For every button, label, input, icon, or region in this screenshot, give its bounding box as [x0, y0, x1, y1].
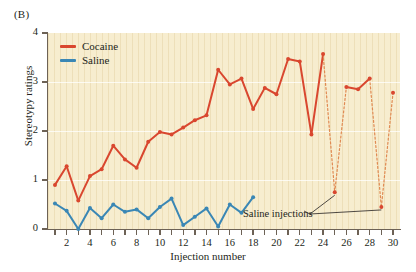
data-point: [321, 52, 325, 56]
series-segment: [300, 61, 312, 134]
annotation-leader-line: [310, 195, 335, 214]
series-segment: [207, 70, 219, 116]
data-point: [251, 195, 255, 199]
data-point: [391, 91, 395, 95]
series-segment: [207, 208, 219, 226]
data-point: [274, 92, 278, 96]
data-point: [100, 216, 104, 220]
series-segment: [172, 128, 184, 135]
series-segment: [183, 120, 195, 127]
series-segment: [113, 205, 125, 212]
data-point: [53, 202, 57, 206]
series-segment: [113, 146, 125, 160]
series-segment: [90, 208, 102, 218]
data-point: [111, 203, 115, 207]
series-segment: [276, 59, 288, 94]
data-point: [111, 144, 115, 148]
series-segment: [230, 205, 242, 213]
series-segment: [148, 207, 160, 218]
data-point: [193, 215, 197, 219]
series-segment: [102, 205, 114, 219]
data-point: [146, 216, 150, 220]
data-point: [356, 87, 360, 91]
series-segment: [358, 79, 370, 90]
series-segment: [241, 79, 253, 109]
series-segment: [148, 132, 160, 142]
series-segment: [335, 87, 347, 192]
series-segment: [218, 70, 230, 85]
data-point: [170, 132, 174, 136]
data-point: [205, 113, 209, 117]
data-point: [76, 227, 80, 231]
data-point: [251, 107, 255, 111]
series-segment: [218, 205, 230, 227]
data-point: [379, 205, 383, 209]
data-point: [309, 132, 313, 136]
series-segment: [160, 199, 172, 207]
data-point: [333, 190, 337, 194]
series-segment: [137, 209, 149, 218]
series-segment: [67, 166, 79, 200]
series-saline: [53, 195, 255, 231]
data-point: [123, 210, 127, 214]
data-point: [228, 203, 232, 207]
series-cocaine: [53, 52, 395, 209]
series-segment: [55, 166, 67, 185]
series-segment: [311, 54, 323, 134]
series-segment: [78, 176, 90, 201]
data-point: [344, 85, 348, 89]
data-point: [216, 225, 220, 229]
data-point: [286, 57, 290, 61]
data-point: [100, 167, 104, 171]
series-layer: [0, 0, 416, 272]
data-point: [53, 183, 57, 187]
series-segment: [102, 146, 114, 170]
series-segment: [370, 79, 382, 207]
data-point: [181, 126, 185, 130]
data-point: [181, 223, 185, 227]
data-point: [65, 164, 69, 168]
data-point: [146, 140, 150, 144]
data-point: [158, 130, 162, 134]
annotation-leader-line: [310, 210, 381, 214]
data-point: [205, 206, 209, 210]
series-segment: [78, 208, 90, 229]
series-segment: [195, 208, 207, 216]
figure-panel: (B) 01234 24681012141618202224262830 Ste…: [0, 0, 416, 272]
series-segment: [253, 88, 265, 109]
data-point: [88, 206, 92, 210]
series-segment: [137, 142, 149, 168]
data-point: [239, 77, 243, 81]
series-segment: [67, 211, 79, 229]
data-point: [135, 207, 139, 211]
data-point: [76, 199, 80, 203]
data-point: [368, 77, 372, 81]
data-point: [65, 209, 69, 213]
data-point: [216, 68, 220, 72]
series-segment: [55, 204, 67, 211]
data-point: [135, 166, 139, 170]
data-point: [123, 157, 127, 161]
data-point: [170, 197, 174, 201]
series-segment: [90, 169, 102, 176]
data-point: [88, 174, 92, 178]
series-segment: [125, 159, 137, 167]
data-point: [228, 82, 232, 86]
data-point: [263, 86, 267, 90]
data-point: [158, 205, 162, 209]
saline-injections-annotation: Saline injections: [243, 208, 313, 219]
data-point: [298, 59, 302, 63]
series-segment: [381, 93, 393, 207]
series-segment: [323, 54, 335, 192]
series-segment: [183, 217, 195, 225]
series-segment: [172, 199, 184, 225]
data-point: [193, 118, 197, 122]
